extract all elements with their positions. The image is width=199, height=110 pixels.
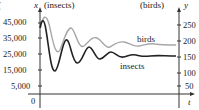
left-tick-label: 35,000 xyxy=(3,34,26,43)
origin-label: 0 xyxy=(31,97,35,106)
right-axis-symbol: y xyxy=(184,1,188,10)
right-tick-label: 150 xyxy=(183,53,196,62)
right-axis-arrow-icon xyxy=(177,7,181,12)
chart-plot xyxy=(0,0,199,110)
right-tick-label: 200 xyxy=(183,37,196,46)
left-tick-label: 15,000 xyxy=(3,66,26,75)
right-tick-label: 100 xyxy=(183,69,196,78)
left-tick-label: 5,000 xyxy=(11,82,30,91)
birds-series-label: birds xyxy=(137,35,155,44)
left-tick-label: 45,000 xyxy=(3,18,26,27)
right-tick-label: 50 xyxy=(185,82,194,91)
x-axis-symbol: t xyxy=(188,98,191,107)
left-axis-arrow-icon xyxy=(38,7,42,12)
left-axis-symbol: x xyxy=(34,1,38,10)
birds-curve xyxy=(40,17,176,52)
right-tick-label: 250 xyxy=(183,21,196,30)
left-axis-unit: (insects) xyxy=(44,1,75,10)
right-axis-unit: (birds) xyxy=(140,1,164,10)
left-tick-label: 25,000 xyxy=(3,50,26,59)
insects-series-label: insects xyxy=(120,62,145,71)
panel-marker: ( xyxy=(0,1,1,10)
x-axis-arrow-icon xyxy=(190,92,195,96)
insects-curve xyxy=(40,21,176,71)
